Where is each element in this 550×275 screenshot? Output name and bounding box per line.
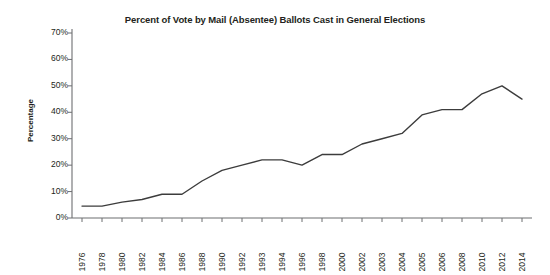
y-axis-tick-labels: 70%60%50%40%30%20%10%0% — [30, 0, 68, 275]
y-axis-tick-label: 10% — [34, 186, 68, 196]
y-axis-tick-label: 60% — [34, 53, 68, 63]
data-series-line — [82, 86, 522, 206]
y-axis-tick-label: 20% — [34, 159, 68, 169]
y-axis-tick-label: 50% — [34, 80, 68, 90]
y-axis-tick-label: 40% — [34, 106, 68, 116]
chart-plot-area — [0, 0, 550, 275]
chart-title: Percent of Vote by Mail (Absentee) Ballo… — [0, 14, 550, 25]
chart-axes — [72, 29, 532, 218]
chart-tick-marks — [68, 33, 522, 222]
y-axis-tick-label: 30% — [34, 133, 68, 143]
chart-container: Percent of Vote by Mail (Absentee) Ballo… — [0, 0, 550, 275]
y-axis-tick-label: 70% — [34, 27, 68, 37]
y-axis-tick-label: 0% — [34, 212, 68, 222]
